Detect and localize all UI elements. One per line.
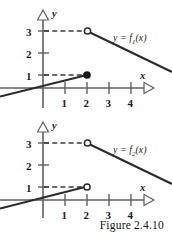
x-axis-label-f2: x (139, 182, 145, 193)
function-label-prefix-f2: y = f (112, 144, 133, 155)
function-label-suffix-f2: (x) (135, 144, 147, 156)
endpoint-open-2-3-f2 (84, 140, 90, 146)
x-axis-arrow-icon-f1 (144, 83, 154, 94)
y-tick-label-3-f1: 3 (26, 26, 32, 38)
x-tick-label-3-f1: 3 (106, 97, 112, 109)
y-tick-label-2-f2: 2 (26, 160, 32, 172)
function-label-prefix-f1: y = f (112, 32, 133, 43)
x-tick-label-4-f1: 4 (128, 97, 134, 109)
y-axis-arrow-icon-f2 (38, 122, 49, 132)
figure-caption: Figure 2.4.10 (0, 219, 172, 231)
function-label-suffix-f1: (x) (135, 32, 147, 44)
x-axis-label-f1: x (139, 70, 145, 81)
y-axis-label-f2: y (50, 120, 57, 131)
endpoint-filled-2-1-f1 (84, 72, 90, 78)
x-axis-arrow-icon-f2 (144, 195, 154, 206)
chart-panel-f1: y x 1 2 3 4 3 2 1 y = f1(x) (0, 0, 172, 112)
y-tick-label-1-f1: 1 (26, 70, 32, 82)
chart-panel-f2: y x 1 2 3 4 3 2 1 y = f2(x) (0, 112, 172, 224)
endpoint-open-2-3-f1 (84, 28, 90, 34)
y-tick-label-1-f2: 1 (26, 182, 32, 194)
figure-container: y x 1 2 3 4 3 2 1 y = f1(x) (0, 0, 172, 239)
y-axis-label-f1: y (50, 8, 57, 19)
y-tick-label-2-f1: 2 (26, 48, 32, 60)
x-tick-label-2-f1: 2 (84, 97, 90, 109)
endpoint-open-2-1-f2 (84, 184, 90, 190)
function-label-f2: y = f2(x) (112, 144, 147, 158)
y-axis-arrow-icon-f1 (38, 10, 49, 20)
y-tick-label-3-f2: 3 (26, 138, 32, 150)
x-tick-label-1-f1: 1 (62, 97, 68, 109)
function-label-f1: y = f1(x) (112, 32, 147, 46)
